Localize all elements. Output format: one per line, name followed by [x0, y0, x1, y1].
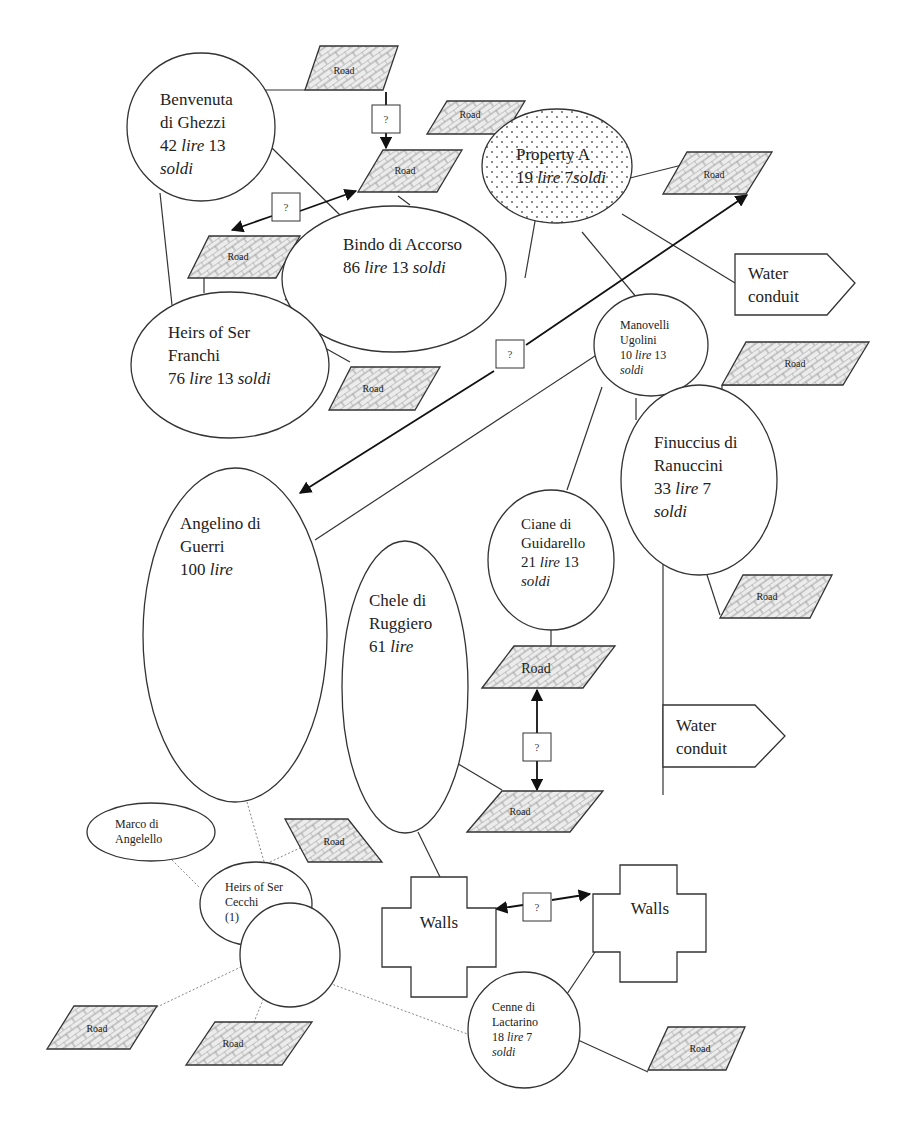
- property-chele: Chele di Ruggiero 61 lire: [342, 541, 468, 833]
- road: Road: [329, 367, 440, 410]
- svg-text:Road: Road: [459, 109, 480, 120]
- question-box: ?: [372, 105, 400, 133]
- svg-text:soldi: soldi: [521, 573, 550, 589]
- svg-text:Cenne di: Cenne di: [492, 1000, 536, 1014]
- svg-text:Guidarello: Guidarello: [521, 535, 585, 551]
- svg-text:Bindo di Accorso: Bindo di Accorso: [343, 235, 462, 254]
- question-box: ?: [496, 340, 524, 368]
- svg-text:Walls: Walls: [420, 913, 458, 932]
- water-conduit: Water conduit: [735, 254, 855, 315]
- svg-text:100 lire: 100 lire: [180, 560, 233, 579]
- svg-text:Ruggiero: Ruggiero: [369, 614, 432, 633]
- property-cenne: Cenne di Lactarino 18 lire 7 soldi: [468, 972, 580, 1088]
- svg-text:18 lire 7: 18 lire 7: [492, 1030, 532, 1044]
- svg-text:Road: Road: [689, 1043, 710, 1054]
- property-diagram: ? ? ? ? ? Road Road Road Road Road Road: [0, 0, 912, 1135]
- svg-text:?: ?: [284, 201, 289, 213]
- road: Road: [722, 342, 869, 385]
- road: Road: [186, 1022, 312, 1065]
- svg-text:conduit: conduit: [676, 739, 727, 758]
- svg-text:Benvenuta: Benvenuta: [160, 90, 233, 109]
- svg-text:33 lire 7: 33 lire 7: [654, 479, 711, 498]
- svg-text:Heirs of Ser: Heirs of Ser: [225, 880, 283, 894]
- svg-text:Ugolini: Ugolini: [620, 333, 657, 347]
- svg-text:Ciane di: Ciane di: [521, 516, 571, 532]
- property-ciane: Ciane di Guidarello 21 lire 13 soldi: [488, 490, 614, 630]
- svg-text:Road: Road: [222, 1038, 243, 1049]
- walls: Walls: [593, 865, 706, 982]
- road: Road: [648, 1027, 745, 1070]
- road: Road: [285, 819, 382, 862]
- road: Road: [467, 791, 603, 832]
- svg-text:76 lire 13 soldi: 76 lire 13 soldi: [168, 369, 271, 388]
- svg-text:Water: Water: [676, 716, 716, 735]
- svg-text:86 lire 13 soldi: 86 lire 13 soldi: [343, 258, 446, 277]
- svg-text:soldi: soldi: [654, 502, 687, 521]
- svg-text:42 lire 13: 42 lire 13: [160, 136, 225, 155]
- svg-text:Ranuccini: Ranuccini: [654, 456, 723, 475]
- svg-text:Water: Water: [748, 264, 788, 283]
- water-conduit: Water conduit: [663, 705, 785, 767]
- svg-text:61 lire: 61 lire: [369, 637, 414, 656]
- svg-text:Marco di: Marco di: [115, 817, 159, 831]
- svg-text:Road: Road: [227, 251, 248, 262]
- svg-text:soldi: soldi: [160, 159, 193, 178]
- svg-text:soldi: soldi: [620, 363, 643, 377]
- svg-text:Road: Road: [756, 591, 777, 602]
- road: Road: [358, 150, 462, 192]
- svg-text:Lactarino: Lactarino: [492, 1015, 538, 1029]
- svg-text:Road: Road: [323, 836, 344, 847]
- property-marco: Marco di Angelello: [87, 803, 215, 861]
- road: Road: [663, 152, 772, 194]
- svg-text:Angelello: Angelello: [115, 832, 162, 846]
- svg-text:Road: Road: [509, 806, 530, 817]
- svg-text:Finuccius di: Finuccius di: [654, 433, 738, 452]
- property-finuccius: Finuccius di Ranuccini 33 lire 7 soldi: [621, 385, 777, 575]
- property-manovelli: Manovelli Ugolini 10 lire 13 soldi: [594, 294, 708, 396]
- question-box: ?: [272, 193, 300, 221]
- svg-text:Road: Road: [521, 661, 551, 676]
- svg-text:Franchi: Franchi: [168, 346, 220, 365]
- road: Road: [482, 646, 615, 688]
- svg-text:Road: Road: [394, 165, 415, 176]
- road: Road: [305, 46, 398, 90]
- svg-text:10 lire 13: 10 lire 13: [620, 348, 666, 362]
- question-box: ?: [523, 893, 551, 921]
- svg-text:Cecchi: Cecchi: [225, 895, 259, 909]
- property-angelino: Angelino di Guerri 100 lire: [143, 468, 327, 802]
- road: Road: [47, 1006, 157, 1049]
- property-benvenuta: Benvenuta di Ghezzi 42 lire 13 soldi: [127, 53, 275, 201]
- svg-text:19 lire 7soldi: 19 lire 7soldi: [516, 168, 606, 187]
- svg-text:(1): (1): [225, 910, 239, 924]
- svg-text:di Ghezzi: di Ghezzi: [160, 113, 226, 132]
- svg-text:21 lire 13: 21 lire 13: [521, 554, 579, 570]
- svg-text:Property A: Property A: [516, 145, 591, 164]
- svg-text:?: ?: [535, 741, 540, 753]
- svg-text:Chele di: Chele di: [369, 591, 426, 610]
- road: Road: [720, 575, 832, 618]
- svg-text:Road: Road: [86, 1023, 107, 1034]
- svg-text:Heirs of Ser: Heirs of Ser: [168, 323, 250, 342]
- svg-text:Road: Road: [362, 383, 383, 394]
- svg-text:Road: Road: [703, 169, 724, 180]
- svg-text:?: ?: [535, 901, 540, 913]
- svg-text:Manovelli: Manovelli: [620, 318, 670, 332]
- property-franchi: Heirs of Ser Franchi 76 lire 13 soldi: [131, 292, 329, 438]
- unnamed-property: [240, 903, 340, 1007]
- svg-text:Guerri: Guerri: [180, 537, 225, 556]
- svg-text:Angelino di: Angelino di: [180, 514, 261, 533]
- svg-text:?: ?: [508, 348, 513, 360]
- question-box: ?: [523, 733, 551, 761]
- svg-text:?: ?: [384, 113, 389, 125]
- svg-text:Walls: Walls: [631, 899, 669, 918]
- svg-text:Road: Road: [784, 358, 805, 369]
- walls: Walls: [382, 877, 496, 997]
- svg-text:conduit: conduit: [748, 287, 799, 306]
- svg-text:soldi: soldi: [492, 1045, 515, 1059]
- svg-text:Road: Road: [333, 65, 354, 76]
- property-a: Property A 19 lire 7soldi: [482, 109, 632, 223]
